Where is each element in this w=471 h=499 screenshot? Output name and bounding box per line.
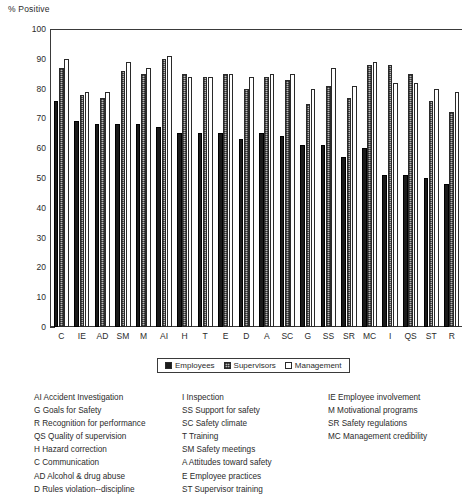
bar-management xyxy=(188,77,193,327)
key-entry: M Motivational programs xyxy=(328,405,471,417)
bar-group xyxy=(403,29,418,327)
bar-group xyxy=(198,29,213,327)
bar-group xyxy=(218,29,233,327)
bar-group xyxy=(362,29,377,327)
x-axis-tick-label: SM xyxy=(117,331,130,341)
key-entry: SC Safety climate xyxy=(182,418,306,430)
bar-supervisors xyxy=(449,112,454,327)
bar-management xyxy=(270,74,275,327)
y-axis-tick-label: 20 xyxy=(20,262,46,272)
chart-legend: EmployeesSupervisorsManagement xyxy=(157,358,350,373)
x-axis-tick-label: H xyxy=(181,331,187,341)
bar-employees xyxy=(341,157,346,327)
bar-management xyxy=(85,92,90,327)
legend-entry: Management xyxy=(285,361,342,370)
x-axis-tick-label: SC xyxy=(281,331,293,341)
key-column-2: I InspectionSS Support for safetySC Safe… xyxy=(160,392,306,495)
x-axis-tick-label: IE xyxy=(78,331,86,341)
y-axis-tick-label: 30 xyxy=(20,233,46,243)
bar-group xyxy=(444,29,459,327)
key-column-3: IE Employee involvementM Motivational pr… xyxy=(306,392,471,495)
bar-supervisors xyxy=(223,74,228,327)
legend-entry: Employees xyxy=(165,361,215,370)
key-entry: QS Quality of supervision xyxy=(34,431,160,443)
bar-management xyxy=(455,92,460,327)
bar-employees xyxy=(424,178,429,327)
bar-employees xyxy=(177,133,182,327)
legend-swatch-icon xyxy=(165,362,172,369)
key-entry: A Attitudes toward safety xyxy=(182,457,306,469)
bar-chart-figure: % Positive 0102030405060708090100 CIEADS… xyxy=(0,0,471,355)
key-entry: D Rules violation--discipline xyxy=(34,484,160,496)
y-axis-tick-label: 0 xyxy=(20,322,46,332)
y-axis-tick-label: 100 xyxy=(20,24,46,34)
bar-management xyxy=(146,68,151,327)
bar-group xyxy=(321,29,336,327)
bar-group xyxy=(280,29,295,327)
key-entry: C Communication xyxy=(34,457,160,469)
key-entry: H Hazard correction xyxy=(34,444,160,456)
key-column-1: AI Accident InvestigationG Goals for Saf… xyxy=(0,392,160,495)
bar-group xyxy=(54,29,69,327)
bar-employees xyxy=(115,124,120,327)
bar-management xyxy=(105,92,110,327)
y-axis-tick-mark xyxy=(50,327,55,328)
bar-group xyxy=(74,29,89,327)
x-axis-tick-label: R xyxy=(449,331,455,341)
y-axis-tick-label: 80 xyxy=(20,84,46,94)
x-axis-tick-label: SS xyxy=(323,331,334,341)
bar-management xyxy=(208,77,213,327)
legend-swatch-icon xyxy=(224,362,231,369)
bar-employees xyxy=(239,139,244,327)
bar-supervisors xyxy=(59,68,64,327)
bar-group xyxy=(259,29,274,327)
y-axis-tick-label: 10 xyxy=(20,292,46,302)
key-entry: SS Support for safety xyxy=(182,405,306,417)
bar-group xyxy=(424,29,439,327)
y-axis-tick-label: 60 xyxy=(20,143,46,153)
bar-management xyxy=(229,74,234,327)
key-entry: MC Management credibility xyxy=(328,431,471,443)
key-entry: R Recognition for performance xyxy=(34,418,160,430)
bar-supervisors xyxy=(408,74,413,327)
key-entry: E Employee practices xyxy=(182,471,306,483)
bar-management xyxy=(393,83,398,327)
bar-management xyxy=(352,86,357,327)
bar-employees xyxy=(95,124,100,327)
x-axis-tick-label: G xyxy=(305,331,312,341)
bar-management xyxy=(126,62,131,327)
bar-group xyxy=(136,29,151,327)
bar-employees xyxy=(218,133,223,327)
bar-supervisors xyxy=(100,98,105,327)
bar-supervisors xyxy=(429,101,434,327)
bar-employees xyxy=(444,184,449,327)
bar-employees xyxy=(382,175,387,327)
bar-supervisors xyxy=(141,74,146,327)
bar-supervisors xyxy=(326,86,331,327)
bar-employees xyxy=(300,145,305,327)
x-axis-tick-label: E xyxy=(223,331,229,341)
legend-entry: Supervisors xyxy=(224,361,276,370)
bar-group xyxy=(300,29,315,327)
bar-supervisors xyxy=(203,77,208,327)
bar-supervisors xyxy=(182,74,187,327)
x-axis-tick-label: AD xyxy=(96,331,108,341)
x-axis-tick-label: SR xyxy=(343,331,355,341)
bar-employees xyxy=(198,133,203,327)
x-axis-tick-label: MC xyxy=(363,331,376,341)
bar-employees xyxy=(403,175,408,327)
bar-management xyxy=(249,77,254,327)
x-axis-tick-label: ST xyxy=(426,331,437,341)
bar-management xyxy=(331,68,336,327)
x-axis-tick-label: AI xyxy=(160,331,168,341)
bar-supervisors xyxy=(388,65,393,327)
bar-employees xyxy=(156,127,161,327)
key-entry: I Inspection xyxy=(182,392,306,404)
bar-employees xyxy=(362,148,367,327)
bar-supervisors xyxy=(244,89,249,327)
y-axis-title: % Positive xyxy=(8,4,50,14)
key-entry: SM Safety meetings xyxy=(182,444,306,456)
bar-group xyxy=(239,29,254,327)
legend-label: Employees xyxy=(175,361,215,370)
key-entry: T Training xyxy=(182,431,306,443)
